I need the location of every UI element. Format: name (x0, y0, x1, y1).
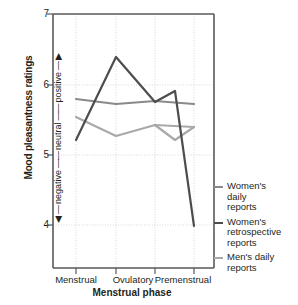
x-tick-label-ovulatory: Ovulatory (111, 275, 155, 285)
legend-swatch-womens-retrospective-icon (214, 222, 223, 224)
series-line-mens-daily (76, 117, 194, 136)
y-axis-ticks (47, 14, 53, 225)
legend-item-womens-retrospective[interactable]: Women's retrospective reports (214, 217, 298, 249)
legend-label-womens-retrospective: Women's retrospective reports (227, 217, 281, 249)
legend-label-mens-daily: Men's daily reports (227, 252, 274, 273)
legend-label-womens-daily: Women's daily reports (227, 181, 266, 213)
legend-swatch-womens-daily-icon (214, 186, 223, 188)
legend-item-womens-daily[interactable]: Women's daily reports (214, 181, 298, 213)
x-axis-title: Menstrual phase (47, 287, 217, 298)
axis-spines (53, 14, 214, 268)
grid-lines-vertical (76, 14, 194, 268)
chart-legend: Women's daily reports Women's retrospect… (214, 181, 298, 277)
x-tick-label-premenstrual: Premenstrual (152, 275, 214, 285)
x-tick-label-menstrual: Menstrual (52, 275, 100, 285)
series-line-womens-retrospective (76, 57, 194, 226)
chart-figure: Mood pleasantness ratings ◀—negative——ne… (0, 0, 298, 305)
legend-item-mens-daily[interactable]: Men's daily reports (214, 252, 298, 273)
legend-swatch-mens-daily-icon (214, 257, 223, 259)
